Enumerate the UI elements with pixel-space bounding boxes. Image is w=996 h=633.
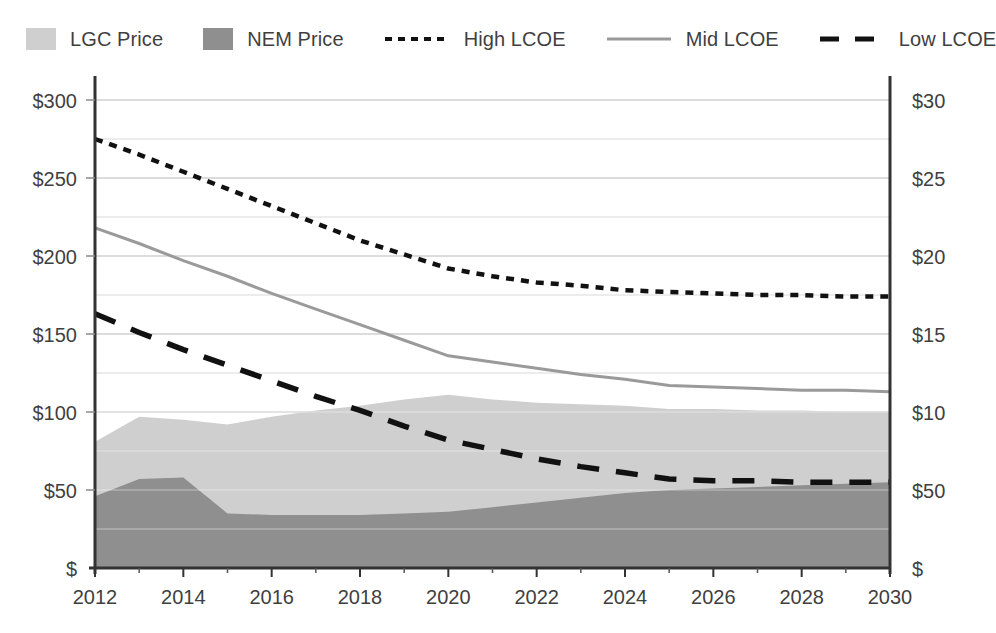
x-axis-label: 2022 [514,586,559,608]
x-axis-label: 2026 [691,586,736,608]
x-axis-label: 2012 [73,586,118,608]
x-axis-label: 2020 [426,586,471,608]
legend-label-high-lcoe: High LCOE [464,28,566,51]
chart-svg: $$50$100$150$200$250$300 $$50$100$150$20… [0,60,945,633]
dotted-line-icon [384,28,450,50]
legend-item-low-lcoe[interactable]: Low LCOE [819,28,996,51]
line-mid-lcoe [95,228,890,392]
y-axis-label: $50 [44,480,77,502]
x-axis-label: 2018 [338,586,383,608]
square-swatch-icon [26,28,56,50]
area-series-group [95,395,890,568]
y-axis-label: $150 [912,324,945,346]
y-axis-label: $ [912,558,923,580]
y-axis-label: $200 [912,246,945,268]
legend-label-low-lcoe: Low LCOE [899,28,996,51]
x-axis-label: 2030 [868,586,913,608]
y-axis-label: $150 [33,324,78,346]
legend-label-lgc-price: LGC Price [70,28,163,51]
legend-label-mid-lcoe: Mid LCOE [686,28,779,51]
x-axis-label: 2028 [779,586,824,608]
legend-item-high-lcoe[interactable]: High LCOE [384,28,566,51]
y-axis-label: $250 [33,168,78,190]
x-axis-label: 2016 [249,586,294,608]
solid-line-icon [606,28,672,50]
y-axis-labels-left: $$50$100$150$200$250$300 [33,90,78,580]
chart-legend: LGC Price NEM Price High LCOE Mid LCOE [0,18,945,60]
x-axis-label: 2024 [603,586,648,608]
plot-area: $$50$100$150$200$250$300 $$50$100$150$20… [0,60,945,633]
legend-item-lgc-price[interactable]: LGC Price [26,28,163,51]
x-axis-labels: 2012201420162018202020222024202620282030 [73,586,913,608]
y-axis-label: $100 [33,402,78,424]
x-axis-label: 2014 [161,586,206,608]
y-axis-label: $100 [912,402,945,424]
y-axis-label: $300 [912,90,945,112]
dashed-line-icon [819,28,885,50]
legend-item-nem-price[interactable]: NEM Price [203,28,343,51]
y-axis-label: $ [66,558,77,580]
y-axis-label: $50 [912,480,945,502]
y-axis-label: $250 [912,168,945,190]
square-swatch-icon [203,28,233,50]
y-axis-labels-right: $$50$100$150$200$250$300 [912,90,945,580]
y-axis-label: $200 [33,246,78,268]
y-axis-label: $300 [33,90,78,112]
legend-item-mid-lcoe[interactable]: Mid LCOE [606,28,779,51]
legend-label-nem-price: NEM Price [247,28,343,51]
